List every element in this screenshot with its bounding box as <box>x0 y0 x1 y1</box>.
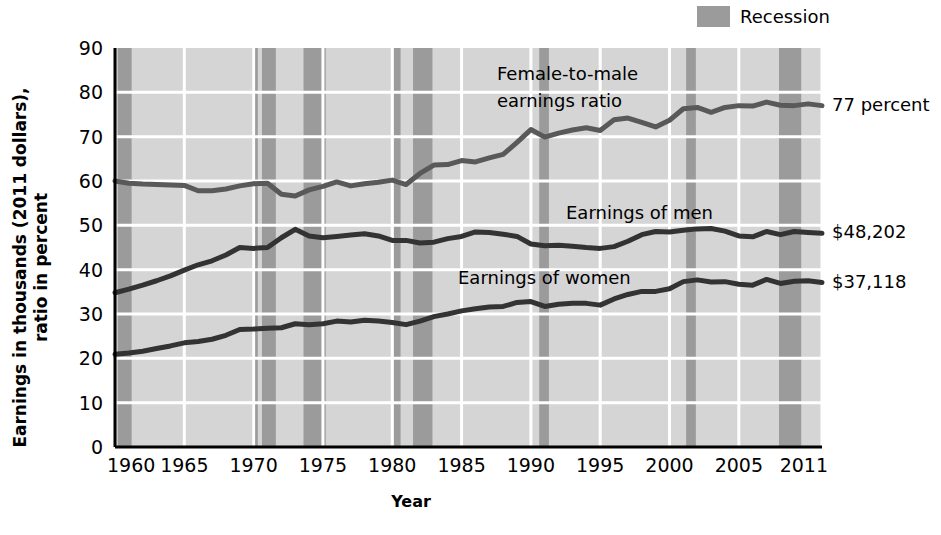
y-tick-label: 30 <box>79 303 103 325</box>
x-tick-label: 1965 <box>160 454 208 476</box>
annotation-female-to-male-ratio: Female-to-male earnings ratio <box>497 60 638 114</box>
x-tick-label: 1970 <box>229 454 277 476</box>
y-tick-label: 70 <box>79 126 103 148</box>
x-tick-label: 2011 <box>780 454 828 476</box>
x-tick-label: 2000 <box>645 454 693 476</box>
chart-figure: Earnings in thousands (2011 dollars), ra… <box>0 0 941 535</box>
end-label-ratio: 77 percent <box>832 94 930 115</box>
x-tick-label: 1985 <box>437 454 485 476</box>
y-tick-labels-group: 0102030405060708090 <box>79 37 103 458</box>
y-tick-label: 40 <box>79 259 103 281</box>
x-tick-label: 1980 <box>368 454 416 476</box>
recession-legend-swatch <box>697 6 730 27</box>
y-tick-label: 50 <box>79 214 103 236</box>
y-tick-label: 20 <box>79 347 103 369</box>
y-tick-label: 90 <box>79 37 103 59</box>
recession-band <box>394 48 401 447</box>
chart-legend: Recession <box>697 6 830 27</box>
x-tick-label: 2005 <box>715 454 763 476</box>
y-tick-label: 60 <box>79 170 103 192</box>
x-tick-label: 1960 <box>107 454 155 476</box>
x-tick-labels-group: 1960196519701975198019851990199520002005… <box>107 454 828 476</box>
annotation-earnings-of-men: Earnings of men <box>566 199 713 226</box>
end-label-women: $37,118 <box>832 271 906 292</box>
annotation-earnings-of-women: Earnings of women <box>458 264 631 291</box>
end-label-men: $48,202 <box>832 221 906 242</box>
recession-legend-label: Recession <box>740 6 830 27</box>
x-tick-label: 1990 <box>507 454 555 476</box>
x-axis-title: Year <box>0 492 822 511</box>
x-tick-label: 1995 <box>576 454 624 476</box>
plot-background <box>115 48 822 447</box>
x-tick-label: 1975 <box>299 454 347 476</box>
y-tick-label: 0 <box>91 436 103 458</box>
y-tick-label: 10 <box>79 392 103 414</box>
recession-band <box>118 48 132 447</box>
y-tick-label: 80 <box>79 81 103 103</box>
recession-band <box>413 48 432 447</box>
